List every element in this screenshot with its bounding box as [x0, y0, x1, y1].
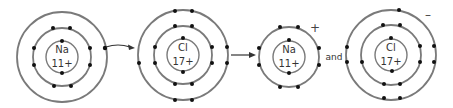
chlorine-atom: Cl 17+	[137, 9, 229, 102]
electron	[287, 71, 291, 75]
reaction-arrow	[231, 52, 256, 58]
electron	[181, 36, 185, 40]
electron-transfer-arrow	[106, 45, 135, 51]
electron	[190, 24, 194, 28]
electron	[382, 96, 386, 100]
electron	[137, 61, 141, 65]
electron	[190, 82, 194, 86]
electron	[88, 63, 92, 67]
sodium-ion-charge: +	[310, 21, 320, 35]
electron	[190, 98, 194, 102]
chlorine-shell-2	[154, 26, 212, 84]
electron	[398, 82, 402, 86]
electron	[88, 46, 92, 50]
electron	[173, 82, 177, 86]
electron	[68, 26, 72, 30]
electron	[345, 60, 349, 64]
chloride-ion-nuclear-charge: 17+	[380, 56, 401, 67]
electron	[69, 84, 73, 88]
electron	[173, 24, 177, 28]
electron	[296, 25, 300, 29]
electron	[390, 69, 394, 73]
sodium-ion: Na 11+ +	[257, 21, 321, 89]
electron	[397, 8, 401, 12]
electron	[278, 85, 282, 89]
sodium-ion-nuclear-charge: 11+	[278, 58, 299, 69]
sodium-atom: Na 11+	[17, 12, 107, 102]
electron	[32, 63, 36, 67]
electron	[317, 46, 321, 50]
sodium-ion-shell-2	[259, 27, 319, 87]
electron	[345, 45, 349, 49]
electron	[398, 96, 402, 100]
sodium-ion-symbol: Na	[282, 44, 296, 55]
electron	[382, 82, 386, 86]
arrowhead-icon	[249, 52, 256, 58]
electron	[153, 61, 157, 65]
electron	[360, 60, 364, 64]
electron	[173, 98, 177, 102]
and-label: and	[326, 52, 343, 62]
electron	[389, 36, 393, 40]
electron	[418, 60, 422, 64]
electron	[257, 63, 261, 67]
chloride-ion-shell-3	[346, 10, 436, 100]
electron	[418, 44, 422, 48]
chloride-ion-shell-2	[361, 25, 421, 85]
electron	[398, 23, 402, 27]
electron	[432, 44, 436, 48]
electron	[257, 46, 261, 50]
electron	[173, 9, 177, 13]
electron	[225, 61, 229, 65]
electron	[52, 84, 56, 88]
electron	[51, 26, 55, 30]
sodium-shell-2	[33, 28, 91, 86]
electron	[32, 46, 36, 50]
electron	[60, 71, 64, 75]
chloride-ion-symbol: Cl	[386, 42, 396, 53]
electron	[432, 60, 436, 64]
arrowhead-icon	[128, 45, 135, 51]
chlorine-nuclear-charge: 17+	[172, 56, 193, 67]
electron	[278, 25, 282, 29]
chloride-ion: Cl 17+ –	[345, 8, 436, 100]
electron	[60, 39, 64, 43]
chlorine-shell-3	[138, 10, 228, 100]
electron	[210, 45, 214, 49]
sodium-nuclear-charge: 11+	[51, 58, 72, 69]
electron	[381, 23, 385, 27]
sodium-symbol: Na	[55, 44, 69, 55]
electron	[181, 70, 185, 74]
electron	[153, 45, 157, 49]
electron	[190, 9, 194, 13]
electron	[210, 61, 214, 65]
chloride-ion-charge: –	[425, 8, 431, 22]
ionic-bond-diagram: Na 11+ Cl 17+	[0, 0, 453, 108]
electron	[225, 45, 229, 49]
chlorine-symbol: Cl	[178, 42, 188, 53]
electron	[296, 85, 300, 89]
electron	[287, 38, 291, 42]
electron	[317, 63, 321, 67]
sodium-shell-3	[17, 12, 107, 102]
